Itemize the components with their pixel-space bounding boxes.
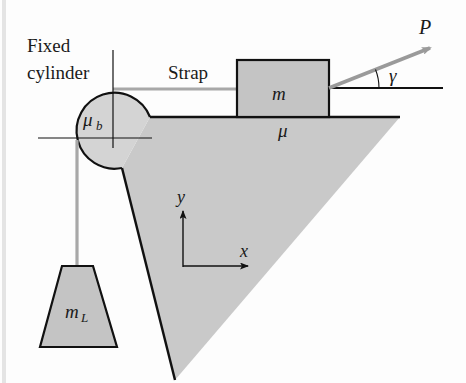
wedge-body (122, 117, 400, 380)
block-mass-label: m (272, 83, 286, 104)
pull-force-label: P (418, 16, 431, 38)
strap-label: Strap (168, 62, 208, 83)
pull-force-arrow (329, 48, 430, 88)
hanging-mass-label: m (65, 301, 79, 322)
friction-diagram: Fixed cylinder Strap m μ μ b P γ m L y x (0, 0, 466, 383)
fixed-cylinder-label-line2: cylinder (27, 62, 90, 83)
surface-friction-label: μ (277, 120, 288, 141)
pull-angle-label: γ (389, 65, 397, 86)
angle-gamma-arc (376, 70, 380, 89)
fixed-cylinder-label-line1: Fixed (27, 35, 71, 56)
cylinder-friction-subscript: b (96, 118, 103, 133)
x-axis-label: x (239, 241, 248, 261)
y-axis-label: y (175, 187, 185, 207)
cylinder-friction-label: μ (82, 109, 93, 130)
hanging-mass-subscript: L (80, 310, 88, 325)
